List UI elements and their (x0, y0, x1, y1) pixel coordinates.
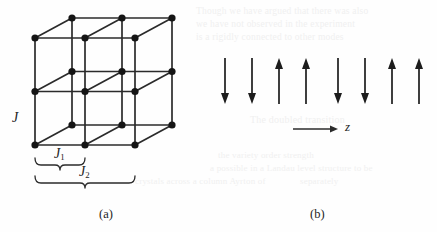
panel-caption-b: (b) (310, 207, 325, 222)
spin-arrow-down (221, 58, 229, 104)
spin-arrow-down (334, 58, 342, 104)
spin-arrow-head (388, 58, 396, 69)
spin-arrow-up (415, 58, 423, 104)
coupling-label-j1: J1 (54, 146, 65, 162)
coupling-label-j2: J2 (79, 164, 90, 180)
z-axis-arrow (293, 125, 338, 132)
z-axis-head (330, 125, 338, 132)
spin-arrow-head (334, 93, 342, 104)
spin-chain-diagram (0, 0, 437, 232)
panel-caption-a: (a) (99, 207, 113, 222)
spin-arrow-down (248, 58, 256, 104)
spin-arrow-up (388, 58, 396, 104)
spin-arrow-head (221, 93, 229, 104)
coupling-label-j: J (12, 110, 18, 126)
spin-arrow-up (275, 58, 283, 104)
spin-arrow-up (302, 58, 310, 104)
figure-root: Though we have argued that there was als… (0, 0, 437, 232)
spin-arrow-down (361, 58, 369, 104)
coupling-label-j2-subscript: 2 (85, 170, 89, 180)
axis-label-z: z (345, 119, 350, 135)
spin-arrow-head (361, 93, 369, 104)
spin-arrow-head (275, 58, 283, 69)
spin-arrow-head (248, 93, 256, 104)
coupling-label-j1-subscript: 1 (60, 152, 64, 162)
spin-arrow-head (415, 58, 423, 69)
spin-group (221, 58, 423, 133)
spin-arrow-head (302, 58, 310, 69)
